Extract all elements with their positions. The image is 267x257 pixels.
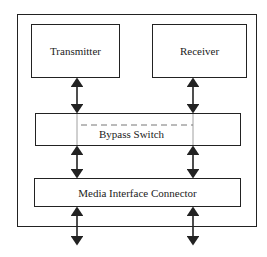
connector-arrows <box>0 0 267 257</box>
